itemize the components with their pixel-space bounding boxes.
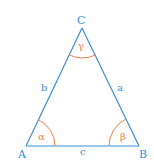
vertex-label-c: C <box>77 14 85 27</box>
vertex-label-a: A <box>17 148 27 161</box>
side-label-a: a <box>117 82 123 93</box>
angle-label-alpha: α <box>38 131 45 142</box>
side-label-b: b <box>41 82 47 93</box>
side-b <box>26 28 82 146</box>
angle-label-gamma: γ <box>78 40 84 51</box>
vertex-label-b: B <box>139 148 147 161</box>
triangle-diagram: C A B b a c γ α β <box>0 0 154 167</box>
angle-label-beta: β <box>120 131 126 142</box>
side-label-c: c <box>80 146 86 157</box>
side-a <box>82 28 139 146</box>
angle-gamma-arc <box>70 55 96 58</box>
